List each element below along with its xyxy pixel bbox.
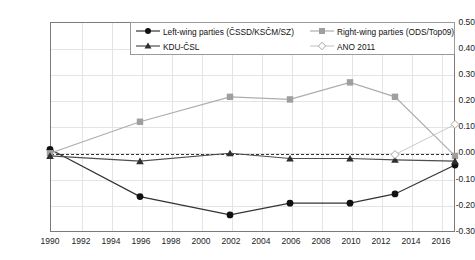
data-point [227,94,233,100]
line-chart: 0.50 0.40 0.30 0.20 0.10 0.00 -0.10 -0.2… [0,0,475,260]
legend-marker-left-wing [135,26,161,36]
data-point [392,191,399,198]
data-point [451,120,459,128]
series-1 [47,79,458,159]
x-tick-label: 2016 [421,236,461,246]
data-point [287,96,293,102]
legend-label-right-wing: Right-wing parties (ODS/Top09) [337,27,454,37]
legend-label-ano-2011: ANO 2011 [337,42,375,52]
legend: Left-wing parties (ČSSD/KSČM/SZ) Right-w… [130,22,455,55]
legend-label-left-wing: Left-wing parties (ČSSD/KSČM/SZ) [163,27,294,37]
data-point [137,193,144,200]
data-point [391,151,399,159]
data-point [227,212,234,219]
data-point [137,119,143,125]
data-point [347,79,353,85]
legend-label-kdu-csl: KDU-ČSL [163,42,199,52]
data-point [392,94,398,100]
data-point [287,200,294,207]
legend-marker-right-wing [309,26,335,36]
data-point [347,200,354,207]
legend-marker-kdu-csl [135,41,161,51]
legend-marker-ano-2011 [309,41,335,51]
